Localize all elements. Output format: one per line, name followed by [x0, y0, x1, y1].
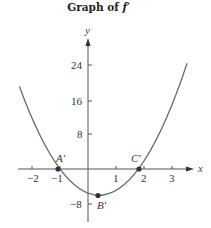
x-tick-label: 1 [113, 172, 119, 184]
y-ticks [88, 65, 92, 204]
x-tick-label: 3 [169, 172, 175, 184]
point-c-prime-label: C′ [131, 152, 141, 164]
x-tick-label: −1 [51, 172, 63, 184]
x-tick-label: −2 [27, 172, 39, 184]
point-b-prime-label: B′ [97, 199, 107, 211]
y-tick-label: 16 [71, 95, 83, 107]
point-a-prime [55, 166, 60, 171]
x-axis-arrow-icon [186, 167, 194, 172]
point-b-prime [95, 193, 100, 198]
point-c-prime [136, 166, 141, 171]
y-axis-arrow-icon [86, 38, 91, 46]
point-a-prime-label: A′ [55, 152, 66, 164]
y-tick-label: −8 [70, 198, 82, 210]
x-tick-label: 2 [141, 172, 147, 184]
y-tick-label: 24 [71, 59, 83, 71]
plot-area: y x −2 −1 1 2 3 24 16 8 −8 A′ B′ C′ [0, 0, 211, 228]
x-axis-label: x [197, 162, 203, 174]
f-prime-curve [19, 63, 187, 195]
y-tick-label: 8 [77, 128, 83, 140]
y-axis-label: y [84, 24, 90, 36]
